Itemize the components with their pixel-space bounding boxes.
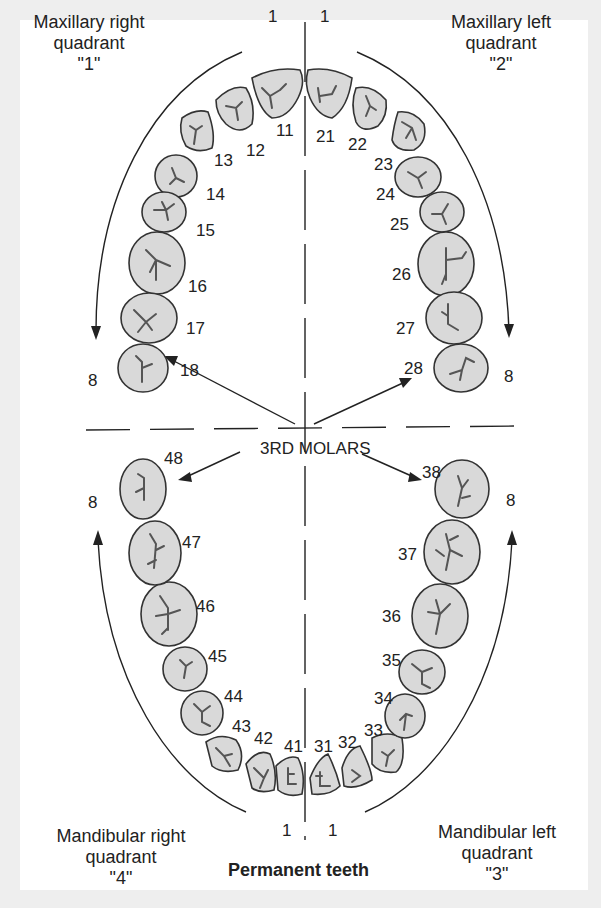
tooth-label-48: 48 [164, 448, 183, 469]
range-start-upper-left: 1 [320, 6, 329, 27]
arrow-down-icon [91, 326, 101, 340]
range-end-lower-right: 8 [88, 492, 97, 513]
tooth-label-38: 38 [422, 462, 441, 483]
tooth-27[interactable] [426, 292, 482, 344]
tooth-label-16: 16 [188, 276, 207, 297]
tooth-24[interactable] [395, 157, 441, 197]
quadrant-number: "4" [36, 868, 206, 889]
quadrant-number: "3" [422, 864, 572, 885]
tooth-label-18: 18 [180, 360, 199, 381]
quadrant-name: Mandibular left [422, 822, 572, 843]
tooth-43[interactable] [206, 736, 242, 771]
tooth-label-31: 31 [314, 736, 333, 757]
tooth-label-32: 32 [338, 732, 357, 753]
quadrant-number: "2" [428, 54, 574, 75]
range-end-upper-left: 8 [504, 366, 513, 387]
tooth-label-26: 26 [392, 264, 411, 285]
tooth-label-17: 17 [186, 318, 205, 339]
tooth-label-36: 36 [382, 606, 401, 627]
tooth-label-47: 47 [182, 532, 201, 553]
tooth-12[interactable] [216, 87, 253, 130]
tooth-label-14: 14 [206, 184, 225, 205]
quadrant-name: Maxillary left [428, 12, 574, 33]
tooth-label-27: 27 [396, 318, 415, 339]
quadrant-word: quadrant [36, 847, 206, 868]
tooth-label-23: 23 [374, 154, 393, 175]
dental-chart: Maxillary right quadrant "1" Maxillary l… [20, 20, 588, 890]
quadrant-label-lower-right: Mandibular right quadrant "4" [36, 826, 206, 889]
tooth-46[interactable] [141, 582, 197, 646]
arrow-up-icon [507, 530, 517, 545]
tooth-45[interactable] [163, 647, 207, 691]
tooth-14[interactable] [155, 155, 197, 197]
tooth-label-13: 13 [214, 150, 233, 171]
range-end-lower-left: 8 [506, 490, 515, 511]
tooth-label-24: 24 [376, 184, 395, 205]
quadrant-word: quadrant [6, 33, 172, 54]
tooth-13[interactable] [181, 111, 214, 151]
tooth-47[interactable] [129, 521, 181, 585]
tooth-11[interactable] [252, 69, 303, 118]
tooth-35[interactable] [399, 650, 445, 694]
tooth-15[interactable] [142, 192, 186, 232]
tooth-41[interactable] [276, 757, 303, 795]
tooth-label-37: 37 [398, 544, 417, 565]
tooth-label-41: 41 [284, 736, 303, 757]
arrow-up-icon [93, 530, 103, 545]
diagram-title: Permanent teeth [228, 860, 369, 881]
tooth-label-42: 42 [254, 728, 273, 749]
tooth-label-43: 43 [232, 716, 251, 737]
horizontal-divider [86, 426, 520, 430]
tooth-21[interactable] [306, 69, 352, 118]
tooth-36[interactable] [412, 584, 468, 648]
tooth-26[interactable] [418, 232, 474, 296]
tooth-23[interactable] [392, 112, 425, 151]
tooth-label-34: 34 [374, 688, 393, 709]
tooth-17[interactable] [121, 293, 177, 343]
tooth-42[interactable] [246, 752, 275, 791]
quadrant-word: quadrant [422, 843, 572, 864]
quadrant-number: "1" [6, 54, 172, 75]
tooth-38[interactable] [435, 460, 489, 518]
range-start-lower-left: 1 [328, 820, 337, 841]
arrow-icon [408, 472, 422, 482]
quadrant-label-upper-left: Maxillary left quadrant "2" [428, 12, 574, 75]
tooth-44[interactable] [181, 691, 223, 735]
arrow-icon [178, 472, 192, 482]
range-start-upper-right: 1 [268, 6, 277, 27]
quadrant-name: Mandibular right [36, 826, 206, 847]
arrow-down-icon [504, 324, 514, 338]
tooth-label-35: 35 [382, 650, 401, 671]
tooth-label-25: 25 [390, 214, 409, 235]
tooth-28[interactable] [434, 344, 488, 392]
tooth-label-44: 44 [224, 686, 243, 707]
quadrant-label-upper-right: Maxillary right quadrant "1" [6, 12, 172, 75]
quadrant-name: Maxillary right [6, 12, 172, 33]
arrow-icon [399, 378, 412, 388]
tooth-22[interactable] [353, 87, 386, 129]
third-molars-label: 3RD MOLARS [260, 438, 371, 459]
tooth-37[interactable] [424, 520, 480, 584]
tooth-label-11: 11 [276, 120, 294, 141]
tooth-label-21: 21 [316, 126, 335, 147]
tooth-label-46: 46 [196, 596, 215, 617]
tooth-label-12: 12 [246, 140, 265, 161]
tooth-31[interactable] [310, 754, 340, 794]
range-start-lower-right: 1 [282, 820, 291, 841]
range-end-upper-right: 8 [88, 370, 97, 391]
quadrant-label-lower-left: Mandibular left quadrant "3" [422, 822, 572, 885]
tooth-label-15: 15 [196, 220, 215, 241]
tooth-label-45: 45 [208, 646, 227, 667]
tooth-label-28: 28 [404, 358, 423, 379]
tooth-25[interactable] [420, 192, 464, 232]
tooth-label-22: 22 [348, 134, 367, 155]
tooth-18[interactable] [118, 344, 168, 392]
tooth-48[interactable] [120, 459, 166, 519]
tooth-label-33: 33 [364, 720, 383, 741]
tooth-16[interactable] [129, 232, 185, 294]
quadrant-word: quadrant [428, 33, 574, 54]
